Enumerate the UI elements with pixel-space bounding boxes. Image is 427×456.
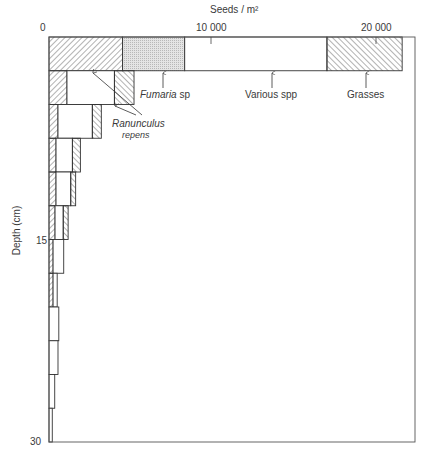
bar-segment-various-spp	[53, 273, 57, 307]
y-tick-15: 15	[36, 235, 47, 246]
bar-segment-ranunculus-repens	[49, 273, 53, 307]
x-tick-0: 0	[40, 22, 46, 33]
bar-segment-various-spp	[49, 408, 52, 442]
bar-segment-various-spp	[55, 206, 63, 240]
bar-segment-various-spp	[185, 37, 327, 71]
bar-segment-various-spp	[56, 138, 72, 172]
bar-segment-grasses	[63, 206, 68, 240]
annotation-ranunculus: Ranunculus	[112, 118, 165, 129]
bar-segment-grasses	[72, 138, 80, 172]
bar-segment-various-spp	[49, 307, 59, 341]
y-axis-title: Depth (cm)	[11, 206, 22, 255]
bar-segment-ranunculus-repens	[49, 71, 67, 105]
bar-segment-grasses	[92, 105, 101, 139]
bar-segment-various-spp	[56, 172, 71, 206]
annotation-repens: repens	[122, 130, 150, 140]
bar-segment-various-spp	[67, 71, 114, 105]
fumaria-suffix: sp	[177, 89, 190, 100]
bar-segment-various-spp	[49, 375, 55, 409]
annotation-grasses: Grasses	[347, 89, 384, 100]
bar-segment-ranunculus-repens	[49, 37, 123, 71]
bar-segment-grasses	[71, 172, 76, 206]
bar-segment-ranunculus-repens	[49, 105, 58, 139]
seed-depth-chart: Seeds / m² 0 10 000 20 000 Depth (cm) 15…	[0, 0, 427, 456]
y-tick-30: 30	[30, 436, 41, 447]
bar-segment-grasses	[327, 37, 402, 71]
bar-segment-various-spp	[53, 240, 64, 274]
bar-segment-various-spp	[58, 105, 92, 139]
bar-segment-ranunculus-repens	[49, 172, 56, 206]
annotation-various: Various spp	[245, 89, 297, 100]
bar-segment-ranunculus-repens	[49, 206, 55, 240]
annotation-fumaria: Fumaria sp	[140, 89, 190, 100]
bar-segment-fumaria-sp	[123, 37, 185, 71]
bar-segment-ranunculus-repens	[49, 138, 56, 172]
x-tick-20000: 20 000	[361, 22, 392, 33]
x-tick-10000: 10 000	[196, 22, 227, 33]
x-axis-title: Seeds / m²	[210, 4, 258, 15]
bar-segment-ranunculus-repens	[49, 240, 53, 274]
fumaria-genus: Fumaria	[140, 89, 177, 100]
bar-segment-various-spp	[49, 341, 58, 375]
plot-area	[0, 0, 427, 456]
